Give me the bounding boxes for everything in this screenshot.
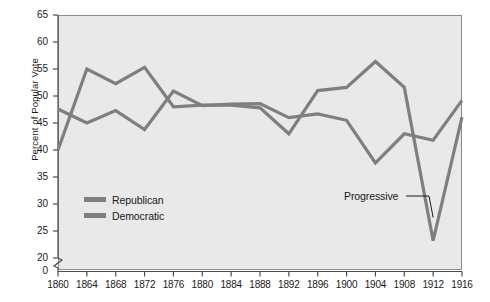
chart-figure: Percent of Popular Vote 2025303540455055…: [0, 0, 490, 302]
y-tick-label: 60: [22, 36, 48, 47]
y-axis-break-icon: [54, 258, 62, 272]
y-tick-label: 55: [22, 63, 48, 74]
y-tick-label: 30: [22, 198, 48, 209]
legend-item-democratic: Democratic: [84, 209, 164, 222]
y-tick-label-zero: 0: [22, 265, 48, 276]
y-tick-label: 50: [22, 90, 48, 101]
annotation-progressive: Progressive: [344, 190, 398, 202]
y-tick-label: 25: [22, 225, 48, 236]
legend-label-republican: Republican: [112, 194, 164, 206]
chart-canvas: [0, 0, 490, 302]
legend: Republican Democratic: [84, 193, 164, 225]
y-tick-label: 45: [22, 117, 48, 128]
legend-swatch-republican: [84, 197, 106, 202]
x-tick-label: 1916: [442, 279, 482, 290]
legend-item-republican: Republican: [84, 193, 164, 206]
y-tick-label: 20: [22, 252, 48, 263]
x-axis-group: [58, 272, 462, 277]
legend-swatch-democratic: [84, 213, 106, 218]
y-tick-label: 35: [22, 171, 48, 182]
legend-label-democratic: Democratic: [112, 210, 164, 222]
y-tick-label: 65: [22, 9, 48, 20]
line-democratic: [58, 91, 462, 163]
y-tick-label: 40: [22, 144, 48, 155]
